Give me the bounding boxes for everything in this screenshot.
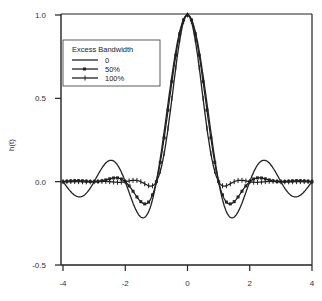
x-tick-label: 0 xyxy=(185,279,190,288)
legend-label: 50% xyxy=(105,65,120,74)
legend-title: Excess Bandwidth xyxy=(72,45,133,54)
chart: 1.00.50.0-0.5 -4-2024 h(t) Excess Bandwi… xyxy=(0,0,322,301)
y-ticks: 1.00.50.0-0.5 xyxy=(32,11,61,270)
x-tick-label: -2 xyxy=(122,279,130,288)
square-marker-icon xyxy=(83,68,86,71)
legend-label: 0 xyxy=(105,56,109,65)
y-tick-label: -0.5 xyxy=(32,261,46,270)
legend-label: 100% xyxy=(105,74,125,83)
x-tick-label: 2 xyxy=(248,279,253,288)
legend: Excess Bandwidth 0 50% 100% xyxy=(63,40,160,86)
y-tick-label: 1.0 xyxy=(35,11,47,20)
y-axis-label: h(t) xyxy=(7,139,16,151)
y-tick-label: 0.0 xyxy=(35,178,47,187)
x-tick-label: 4 xyxy=(310,279,315,288)
x-tick-label: -4 xyxy=(59,279,67,288)
y-tick-label: 0.5 xyxy=(35,94,47,103)
x-ticks: -4-2024 xyxy=(59,265,314,288)
